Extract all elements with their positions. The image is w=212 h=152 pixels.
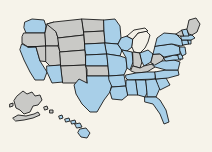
state-RI[interactable]: [188, 40, 191, 44]
us-map-container: [0, 0, 212, 152]
state-HI-oahu[interactable]: [65, 118, 70, 122]
state-AL[interactable]: [136, 80, 147, 97]
state-ND[interactable]: [82, 19, 104, 32]
state-CO[interactable]: [60, 50, 86, 66]
state-OK[interactable]: [86, 66, 109, 76]
state-WY[interactable]: [58, 35, 85, 52]
state-HI-molokai[interactable]: [71, 120, 76, 124]
state-AR[interactable]: [109, 75, 126, 87]
state-AK-islet-1[interactable]: [10, 103, 13, 107]
state-SD[interactable]: [84, 31, 105, 44]
state-KS[interactable]: [86, 54, 108, 66]
state-HI-kauai[interactable]: [59, 115, 63, 119]
state-OR[interactable]: [22, 33, 46, 47]
state-NE[interactable]: [85, 43, 107, 55]
state-AK-islet-2[interactable]: [44, 106, 48, 110]
state-UT[interactable]: [46, 46, 61, 66]
state-WA[interactable]: [24, 19, 46, 33]
united-states-map[interactable]: [0, 0, 212, 152]
state-AK-islet-3[interactable]: [50, 110, 53, 113]
state-NM[interactable]: [61, 65, 87, 83]
state-MO[interactable]: [107, 54, 127, 76]
